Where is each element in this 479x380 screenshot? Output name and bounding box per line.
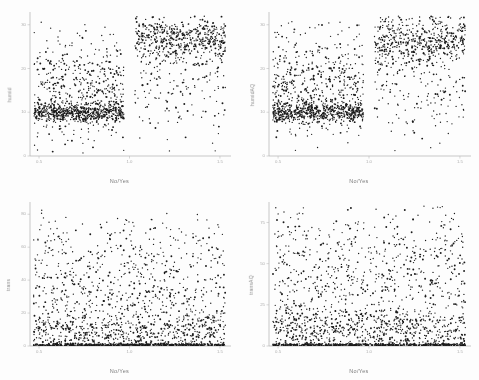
panel-bottom-right-xlabel: No/Yes [239,368,479,374]
scatter-matrix-figure: humid No/Yes humidAQ No/Yes trans No/Yes… [0,0,479,380]
panel-grid: humid No/Yes humidAQ No/Yes trans No/Yes… [0,0,479,380]
panel-top-left-xlabel: No/Yes [0,178,239,184]
panel-bottom-left-canvas [0,190,239,380]
panel-bottom-right: transAQ No/Yes [239,190,479,380]
panel-top-left: humid No/Yes [0,0,239,190]
panel-bottom-left-xlabel: No/Yes [0,368,239,374]
panel-bottom-right-canvas [239,190,479,380]
panel-top-right-canvas [239,0,479,190]
panel-top-right-xlabel: No/Yes [239,178,479,184]
panel-top-right: humidAQ No/Yes [239,0,479,190]
panel-top-left-canvas [0,0,239,190]
panel-bottom-left: trans No/Yes [0,190,239,380]
